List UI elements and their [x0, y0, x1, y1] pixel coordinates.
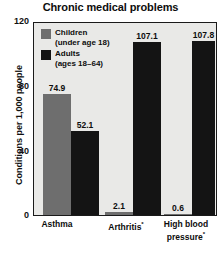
y-axis-title: Conditions per 1,000 people	[14, 50, 24, 200]
legend-item-adults: Adults (ages 18–64)	[41, 49, 133, 68]
x-label-high-blood-pressure: High blood pressure*	[156, 220, 216, 242]
legend: Children (under age 18) Adults (ages 18–…	[41, 28, 133, 70]
x-label-arthritis-note: *	[141, 221, 143, 227]
bar-hbp-children: 0.6	[164, 214, 192, 215]
x-label-asthma: Asthma	[32, 220, 82, 230]
legend-item-children: Children (under age 18)	[41, 28, 133, 47]
chart-container: Chronic medical problems Conditions per …	[0, 0, 221, 259]
bar-value-hbp-adults: 107.8	[193, 30, 214, 40]
x-label-hbp-line2: pressure	[167, 231, 203, 241]
x-label-asthma-text: Asthma	[41, 219, 72, 229]
bar-asthma-children: 74.9	[43, 94, 71, 215]
x-label-arthritis: Arthritis*	[98, 220, 154, 232]
x-label-arthritis-text: Arthritis	[108, 222, 141, 232]
chart-title: Chronic medical problems	[0, 1, 221, 13]
bar-value-arthritis-children: 2.1	[113, 201, 125, 211]
y-tick-label-80: 80	[0, 81, 29, 91]
legend-label-children-main: Children	[55, 28, 87, 37]
plot-inner: Children (under age 18) Adults (ages 18–…	[34, 23, 216, 215]
legend-label-adults-main: Adults	[55, 49, 80, 58]
bar-value-asthma-children: 74.9	[49, 83, 66, 93]
y-tick-label-120: 120	[0, 16, 29, 26]
y-tick-label-40: 40	[0, 146, 29, 156]
bar-hbp-adults: 107.8	[192, 41, 215, 215]
y-tick-label-0: 0	[0, 210, 29, 220]
x-label-hbp-line1: High blood	[164, 219, 208, 229]
legend-label-adults: Adults (ages 18–64)	[55, 49, 103, 68]
bar-value-asthma-adults: 52.1	[77, 120, 94, 130]
bar-value-arthritis-adults: 107.1	[136, 31, 157, 41]
legend-label-children-sub: (under age 18)	[55, 38, 110, 48]
bar-value-hbp-children: 0.6	[172, 203, 184, 213]
bar-arthritis-adults: 107.1	[133, 42, 161, 215]
legend-swatch-adults-icon	[41, 50, 51, 60]
legend-label-adults-sub: (ages 18–64)	[55, 59, 103, 69]
bar-arthritis-children: 2.1	[105, 212, 133, 215]
legend-label-children: Children (under age 18)	[55, 28, 110, 47]
bar-asthma-adults: 52.1	[71, 131, 99, 215]
x-label-hbp-note: *	[203, 231, 205, 237]
legend-swatch-children-icon	[41, 29, 51, 39]
plot-area: Children (under age 18) Adults (ages 18–…	[33, 22, 217, 216]
